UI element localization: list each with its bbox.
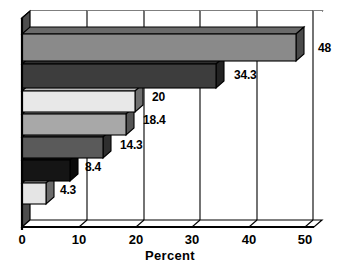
- data-label-bar-7: 4.3: [60, 184, 76, 196]
- x-axis-title: Percent: [0, 248, 340, 263]
- bar-chart: 48 34.3 20 18.4 14.3 8.4 4.3 0 10 20 30 …: [0, 0, 340, 279]
- data-label-bar-1: 48: [318, 42, 331, 54]
- data-label-bar-3: 20: [152, 91, 165, 103]
- data-label-bar-2: 34.3: [234, 69, 257, 81]
- x-tick-label-0: 0: [12, 233, 32, 246]
- x-tick-label-40: 40: [236, 233, 262, 246]
- x-tick-label-10: 10: [66, 233, 92, 246]
- bar-2: [22, 57, 224, 88]
- x-tick-label-20: 20: [123, 233, 149, 246]
- x-tick-label-30: 30: [179, 233, 205, 246]
- data-label-bar-6: 8.4: [85, 161, 101, 173]
- data-label-bar-5: 14.3: [120, 139, 143, 151]
- data-label-bar-4: 18.4: [143, 114, 166, 126]
- bar-1: [22, 27, 304, 61]
- x-tick-label-50: 50: [292, 233, 318, 246]
- plot-area: [0, 0, 340, 279]
